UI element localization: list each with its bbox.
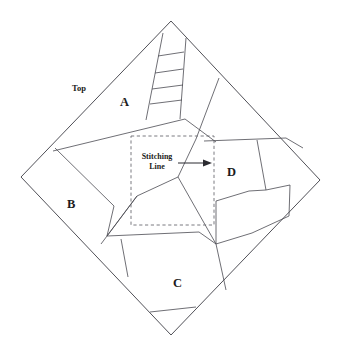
seam-b-right [55,148,114,236]
label-stitching-line-2: Line [134,162,180,172]
quilt-block-diagram [0,0,340,355]
seam-ladder-rung-1 [158,52,184,56]
seam-d-right-arc [266,185,290,216]
seam-c-right-diagonal [199,232,226,290]
seam-d-pocket-top [216,190,266,201]
seam-mid-fan-left [107,177,178,236]
block-outline [21,21,320,335]
seam-center-diagonal [185,119,216,142]
seam-ladder-rung-4 [150,100,182,104]
stitching-line-box [131,136,214,225]
seam-a-right-edge [146,33,163,120]
seam-c-left-diagonal [101,196,137,244]
seam-d-lower [216,216,289,244]
label-top: Top [72,83,86,93]
label-piece-a: A [120,95,129,110]
label-piece-c: C [173,276,182,291]
seam-ladder-rung-3 [152,85,183,89]
label-piece-b: B [67,197,76,212]
seam-ladder-rung-2 [155,69,183,73]
seam-c-bottom [150,307,196,312]
seam-strip-right-edge [180,38,186,119]
diagram-canvas: Top A B C D Stitching Line [0,0,340,355]
seam-d-vertical [257,140,266,190]
seam-c-top [107,232,199,236]
label-stitching-line-1: Stitching [134,152,180,162]
seam-c-split [121,239,128,277]
label-piece-d: D [227,165,236,180]
seam-d-left-boundary [178,78,219,244]
stitching-line-arrow-head [203,160,212,167]
seam-a-lower [53,119,185,151]
